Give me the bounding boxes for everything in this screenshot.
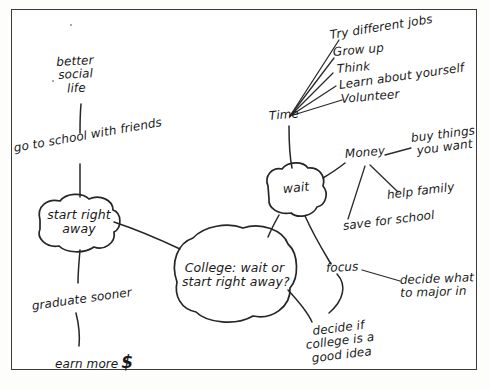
label-center-question: College: wait or start right away? xyxy=(182,261,287,289)
label-focus: focus xyxy=(326,260,359,275)
label-decide-what-to-major-in: decide what to major in xyxy=(400,271,475,300)
mind-map-canvas: better social life go to school with fri… xyxy=(0,0,490,389)
paper-speck xyxy=(70,24,72,26)
dollar-sign-icon: $ xyxy=(118,352,133,372)
paper-speck xyxy=(52,80,54,82)
label-start-right-away: start right away xyxy=(33,208,125,236)
label-better-social-life: better social life xyxy=(56,54,95,96)
label-time: Time xyxy=(268,107,299,123)
label-decide-if-college-is-a-good-idea: decide if college is a good idea xyxy=(304,318,377,366)
label-earn-more: earn more$ xyxy=(55,353,133,372)
earn-more-text: earn more xyxy=(55,357,118,371)
